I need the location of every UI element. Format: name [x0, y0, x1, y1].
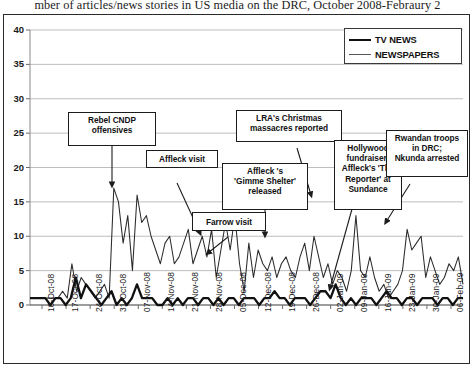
y-axis-tick-label: 35 [2, 59, 24, 69]
annotation-line: Sundance [338, 184, 398, 194]
x-axis-tick-label: 28-Nov-08 [214, 272, 224, 312]
legend-label-newspapers: NEWSPAPERS [375, 50, 439, 60]
x-axis-tick-label: 07-Nov-08 [142, 272, 152, 312]
annotation-line: in DRC; [390, 143, 464, 153]
annotation-line: Nkunda arrested [390, 153, 464, 163]
annotation-line: 'Gimme Shelter' [226, 176, 304, 186]
annotation-line: Rwandan troops [390, 133, 464, 143]
annotation-rwandan-troops: Rwandan troops in DRC; Nkunda arrested [386, 130, 468, 177]
annotation-line: released [226, 186, 304, 196]
y-axis-tick-label: 15 [2, 197, 24, 207]
annotation-line: LRA's Christmas [240, 113, 338, 123]
y-axis-tick-label: 40 [2, 25, 24, 35]
annotation-line: offensives [72, 125, 152, 135]
legend-item-newspapers: NEWSPAPERS [349, 47, 461, 62]
legend-swatch-tv-news [349, 39, 371, 41]
y-axis-tick-label: 20 [2, 163, 24, 173]
x-axis-tick-label: 12-Dec-08 [263, 272, 273, 312]
y-axis-tick-label: 25 [2, 128, 24, 138]
annotation-line: Affleck 's [226, 166, 304, 176]
annotation-line: massacres reported [240, 123, 338, 133]
x-axis-tick-label: 06-Feb-09 [455, 272, 465, 312]
annotation-line: Farrow visit [196, 215, 262, 229]
x-axis-tick-label: 10-Oct-08 [46, 274, 56, 312]
chart-screenshot: mber of articles/news stories in US medi… [0, 0, 475, 366]
legend-label-tv-news: TV NEWS [375, 35, 417, 45]
annotation-affleck-visit: Affleck visit [146, 150, 218, 168]
legend: TV NEWS NEWSPAPERS [344, 28, 462, 64]
x-axis-tick-label: 17-Oct-08 [70, 274, 80, 312]
annotation-gimme-shelter: Affleck 's 'Gimme Shelter' released [222, 163, 308, 210]
x-axis-tick-label: 23-Jan-09 [407, 273, 417, 312]
x-axis-tick-label: 09-Jan-09 [359, 273, 369, 312]
annotation-line: Rebel CNDP [72, 115, 152, 125]
legend-item-tv-news: TV NEWS [349, 32, 461, 47]
y-axis-tick-label: 10 [2, 231, 24, 241]
x-axis-tick-label: 02-Jan-09 [335, 273, 345, 312]
annotation-farrow-visit: Farrow visit [192, 212, 266, 231]
annotation-rebel-cndp: Rebel CNDP offensives [68, 112, 156, 146]
x-axis-tick-label: 21-Nov-08 [190, 272, 200, 312]
x-axis-tick-label: 19-Dec-08 [287, 272, 297, 312]
x-axis-tick-label: 05-Dec-08 [238, 272, 248, 312]
y-axis-tick-label: 0 [2, 300, 24, 310]
x-axis-tick-label: 14-Nov-08 [166, 272, 176, 312]
annotation-lra-christmas: LRA's Christmas massacres reported [236, 110, 342, 142]
legend-swatch-newspapers [349, 54, 371, 55]
x-axis-tick-label: 16-Jan-09 [383, 273, 393, 312]
y-axis-tick-label: 5 [2, 266, 24, 276]
x-axis-tick-label: 30-Jan-09 [431, 273, 441, 312]
x-axis-tick-label: 26-Dec-08 [311, 272, 321, 312]
x-axis-tick-label: 31-Oct-08 [118, 274, 128, 312]
x-axis-tick-label: 24-Oct-08 [94, 274, 104, 312]
y-axis-tick-label: 30 [2, 94, 24, 104]
annotation-line: Affleck visit [150, 153, 214, 166]
